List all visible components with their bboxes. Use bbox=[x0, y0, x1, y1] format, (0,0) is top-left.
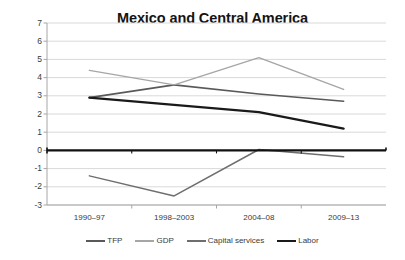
axis-lines bbox=[44, 23, 387, 209]
legend-item-tfp[interactable]: TFP bbox=[86, 236, 122, 245]
y-axis-tick-label: 2 bbox=[14, 110, 42, 119]
y-axis-tick-label: 7 bbox=[14, 19, 42, 28]
y-axis-tick-label: 3 bbox=[14, 91, 42, 100]
legend-label: Labor bbox=[298, 236, 318, 245]
zero-line bbox=[47, 147, 386, 153]
legend-line-swatch bbox=[277, 240, 296, 242]
y-axis-tick-label: 6 bbox=[14, 37, 42, 46]
x-axis-tick-label: 2004–08 bbox=[217, 214, 302, 222]
x-axis-tick-label: 2009–13 bbox=[301, 214, 386, 222]
y-axis-tick-label: 4 bbox=[14, 73, 42, 82]
y-axis-tick-label: 0 bbox=[14, 146, 42, 155]
legend-label: TFP bbox=[107, 236, 122, 245]
chart-container: Mexico and Central America 76543210-1-2-… bbox=[0, 0, 405, 260]
x-axis-tick-label: 1990–97 bbox=[47, 214, 132, 222]
legend-item-gdp[interactable]: GDP bbox=[135, 236, 173, 245]
legend-line-swatch bbox=[187, 240, 206, 242]
series-line-gdp bbox=[89, 58, 343, 90]
series-line-tfp bbox=[89, 85, 343, 101]
y-axis-tick-label: -2 bbox=[14, 182, 42, 191]
legend-line-swatch bbox=[135, 240, 154, 242]
y-axis-tick-label: 1 bbox=[14, 128, 42, 137]
legend-item-capital-services[interactable]: Capital services bbox=[187, 236, 264, 245]
legend-label: GDP bbox=[156, 236, 173, 245]
chart-legend: TFPGDPCapital servicesLabor bbox=[0, 236, 405, 245]
series-line-labor bbox=[89, 98, 343, 129]
y-axis-tick-label: 5 bbox=[14, 55, 42, 64]
x-axis-tick-label: 1998–2003 bbox=[132, 214, 217, 222]
y-axis-tick-label: -3 bbox=[14, 201, 42, 210]
data-series bbox=[89, 58, 343, 196]
legend-line-swatch bbox=[86, 240, 105, 242]
series-line-capital-services bbox=[89, 149, 343, 195]
y-axis-tick-label: -1 bbox=[14, 164, 42, 173]
legend-item-labor[interactable]: Labor bbox=[277, 236, 318, 245]
legend-label: Capital services bbox=[208, 236, 264, 245]
